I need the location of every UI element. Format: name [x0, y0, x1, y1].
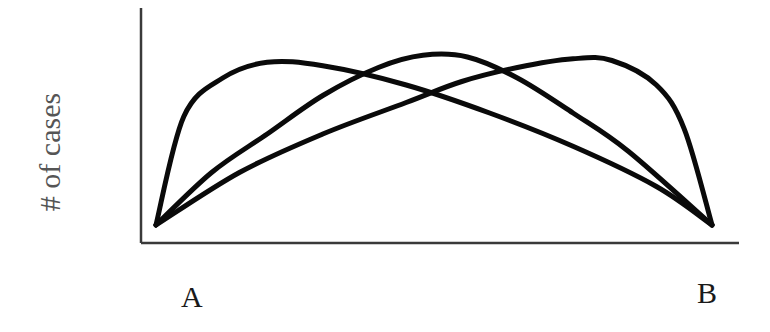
- x-label-b: B: [697, 278, 717, 308]
- curve-peak-near-a: [156, 61, 712, 225]
- curve-peak-centered: [156, 54, 712, 225]
- curves-group: [156, 54, 712, 225]
- chart-canvas: [0, 0, 770, 332]
- curve-peak-near-b: [156, 58, 712, 225]
- y-axis-label: # of cases: [35, 93, 65, 211]
- x-label-a: A: [181, 282, 203, 312]
